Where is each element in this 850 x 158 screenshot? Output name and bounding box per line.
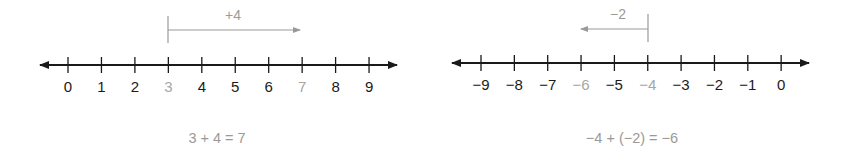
right-tick-labels: −9−8−7−6−5−4−3−2−10: [472, 76, 785, 93]
right-number-line: −9−8−7−6−5−4−3−2−10 −2 −4 + (−2) = −6: [452, 6, 809, 146]
left-equation: 3 + 4 = 7: [188, 130, 245, 146]
number-line-diagram: 0123456789 +4 3 + 4 = 7 −9−8−7−6−5−4−3−2…: [0, 0, 850, 158]
tick-label: −4: [639, 76, 656, 93]
tick-label: −3: [673, 76, 690, 93]
tick-label: 1: [97, 78, 105, 95]
tick-label: 0: [64, 78, 72, 95]
right-equation: −4 + (−2) = −6: [586, 130, 678, 146]
tick-label: −8: [506, 76, 523, 93]
tick-label: 5: [231, 78, 239, 95]
left-tick-labels: 0123456789: [64, 78, 373, 95]
left-jump-label: +4: [225, 7, 241, 23]
tick-label: 6: [265, 78, 273, 95]
tick-label: 4: [198, 78, 206, 95]
tick-label: 8: [331, 78, 339, 95]
tick-label: 3: [164, 78, 172, 95]
tick-label: −9: [472, 76, 489, 93]
tick-label: 2: [131, 78, 139, 95]
tick-label: −1: [739, 76, 756, 93]
left-jump-arrow: +4: [168, 7, 300, 43]
tick-label: −2: [706, 76, 723, 93]
right-jump-label: −2: [610, 6, 626, 22]
tick-label: 9: [365, 78, 373, 95]
tick-label: 0: [777, 76, 785, 93]
left-number-line: 0123456789 +4 3 + 4 = 7: [40, 7, 397, 146]
tick-label: −7: [539, 76, 556, 93]
tick-label: −5: [606, 76, 623, 93]
tick-label: −6: [572, 76, 589, 93]
tick-label: 7: [298, 78, 306, 95]
right-jump-arrow: −2: [581, 6, 648, 42]
